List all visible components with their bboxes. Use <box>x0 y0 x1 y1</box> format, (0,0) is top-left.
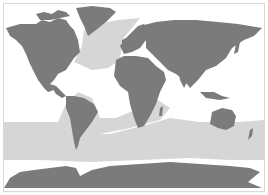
landmasses <box>4 6 262 188</box>
arctic-sea-label: ···· <box>158 9 163 14</box>
north-america <box>6 18 80 92</box>
antarctica <box>4 162 262 188</box>
world-map <box>0 0 268 195</box>
